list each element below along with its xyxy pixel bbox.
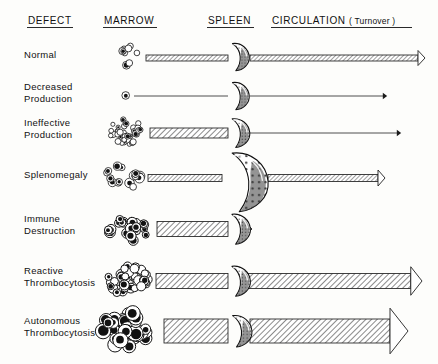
row-label-decreased-production: DecreasedProduction — [24, 81, 73, 104]
platelet-kinetics-diagram: DEFECTMARROWSPLEENCIRCULATION ( Turnover… — [0, 0, 438, 364]
row-label-line: Splenomegaly — [24, 169, 88, 180]
row-label-splenomegaly: Splenomegaly — [24, 169, 88, 180]
spleen-to-circulation-arrow-shaft — [250, 319, 390, 343]
marrow-to-spleen-arrow-shaft — [148, 175, 222, 182]
row-label-line: Thrombocytosis — [24, 327, 95, 338]
marrow-cell-nucleus — [143, 327, 149, 333]
marrow-cell-nucleus — [126, 134, 130, 138]
marrow-cell — [121, 265, 128, 272]
header-label-circulation: CIRCULATION ( Turnover ) — [272, 15, 395, 26]
marrow-cell-nucleus — [133, 171, 138, 176]
spleen-to-circulation-arrow-shaft — [268, 175, 378, 182]
marrow-cell — [122, 273, 129, 280]
row-label-line: Reactive — [24, 265, 63, 276]
marrow-to-spleen-arrow — [150, 128, 228, 138]
row-label-line: Normal — [24, 49, 56, 60]
spleen-to-circulation-arrow-shaft — [250, 55, 418, 61]
row-label-line: Decreased — [24, 81, 73, 92]
diagram-root: DEFECTMARROWSPLEENCIRCULATION ( Turnover… — [0, 0, 438, 364]
marrow-cell-cluster — [122, 92, 130, 100]
marrow-cell-nucleus — [121, 281, 127, 287]
marrow-cell — [125, 45, 132, 52]
marrow-cell-nucleus — [107, 275, 110, 278]
marrow-cell — [137, 282, 146, 291]
marrow-cell — [126, 60, 133, 67]
marrow-cell-nucleus — [121, 50, 125, 54]
marrow-cell — [117, 129, 123, 135]
marrow-cell-nucleus — [105, 320, 112, 327]
marrow-cell — [130, 139, 136, 145]
header-label-marrow: MARROW — [104, 15, 154, 26]
marrow-to-spleen-arrow-shaft — [164, 319, 228, 343]
row-label-line: Immune — [24, 213, 60, 224]
marrow-cell — [130, 264, 139, 273]
header-label-defect: DEFECT — [28, 15, 72, 26]
row-label-line: Thrombocytosis — [24, 277, 95, 288]
marrow-cell-nucleus — [108, 176, 112, 180]
marrow-cell-nucleus — [121, 118, 125, 122]
marrow-cell-nucleus — [124, 94, 128, 98]
row-label-ineffective-production: IneffectiveProduction — [24, 117, 72, 140]
row-label-line: Destruction — [24, 225, 75, 236]
marrow-cell-nucleus — [106, 169, 110, 173]
marrow-cell-nucleus — [115, 290, 119, 294]
marrow-cell-nucleus — [133, 225, 138, 230]
header-spleen: SPLEEN — [207, 15, 254, 28]
marrow-cell-nucleus — [139, 128, 142, 131]
marrow-cell-nucleus — [124, 122, 128, 126]
marrow-to-spleen-arrow-shaft — [157, 222, 228, 237]
row-label-normal: Normal — [24, 49, 56, 60]
marrow-to-spleen-arrow — [148, 175, 222, 182]
marrow-cell-nucleus — [108, 284, 113, 289]
row-label-line: Autonomous — [24, 315, 80, 326]
marrow-to-spleen-arrow — [156, 274, 228, 289]
marrow-cell-nucleus — [118, 217, 122, 221]
marrow-to-spleen-arrow-shaft — [150, 128, 228, 138]
row-label-line: Production — [24, 93, 72, 104]
marrow-cell — [111, 122, 115, 126]
marrow-to-spleen-arrow-shaft — [146, 55, 228, 61]
spleen-to-circulation-arrow-shaft — [248, 274, 411, 289]
marrow-cell — [134, 50, 140, 56]
marrow-cell-nucleus — [117, 126, 119, 128]
header-circulation: CIRCULATION ( Turnover ) — [271, 15, 412, 28]
marrow-cell — [109, 128, 114, 133]
marrow-to-spleen-arrow — [164, 319, 228, 343]
marrow-cell — [108, 133, 113, 138]
marrow-cell — [130, 183, 137, 190]
marrow-cell-nucleus — [106, 228, 110, 232]
marrow-cell-nucleus — [116, 336, 124, 344]
row-label-line: Production — [24, 129, 72, 140]
marrow-cell-nucleus — [127, 233, 133, 239]
header-label-spleen: SPLEEN — [208, 15, 251, 26]
marrow-cell-nucleus — [144, 233, 148, 237]
marrow-cell-nucleus — [114, 163, 120, 169]
marrow-cell — [115, 139, 121, 145]
row-label-line: Ineffective — [24, 117, 70, 128]
marrow-cell-nucleus — [128, 309, 137, 318]
marrow-to-spleen-arrow-shaft — [156, 274, 228, 289]
marrow-cell-nucleus — [118, 180, 121, 183]
marrow-cell-nucleus — [141, 221, 146, 226]
header-defect: DEFECT — [27, 15, 73, 28]
marrow-to-spleen-arrow — [157, 222, 228, 237]
header-marrow: MARROW — [103, 15, 157, 28]
marrow-to-spleen-arrow — [146, 55, 228, 61]
